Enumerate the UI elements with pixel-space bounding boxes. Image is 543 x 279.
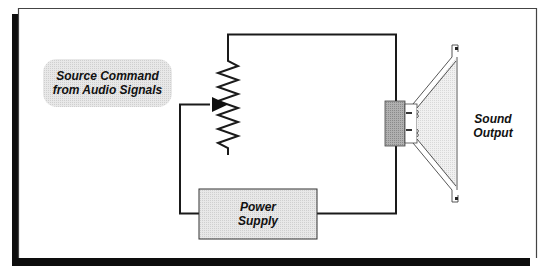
- wires: [180, 35, 396, 214]
- source-command-line1: Source Command: [43, 69, 172, 83]
- sound-output-label: Sound Output: [466, 112, 520, 140]
- speaker-cone: [417, 58, 456, 188]
- power-supply-line1: Power: [199, 200, 317, 214]
- source-command-line2: from Audio Signals: [43, 83, 172, 97]
- sound-output-line2: Output: [466, 126, 520, 140]
- sound-output-line1: Sound: [466, 112, 520, 126]
- source-command-label: Source Command from Audio Signals: [43, 69, 172, 97]
- wire-top: [228, 35, 396, 102]
- potentiometer: [212, 58, 238, 155]
- power-supply-line2: Supply: [199, 214, 317, 228]
- wire-bottom: [317, 146, 396, 214]
- power-supply-label: Power Supply: [199, 200, 317, 228]
- circuit-diagram: [0, 0, 543, 279]
- frame-shadow-bottom: [12, 258, 530, 266]
- speaker-coil: [405, 104, 417, 143]
- speaker-magnet: [385, 101, 405, 146]
